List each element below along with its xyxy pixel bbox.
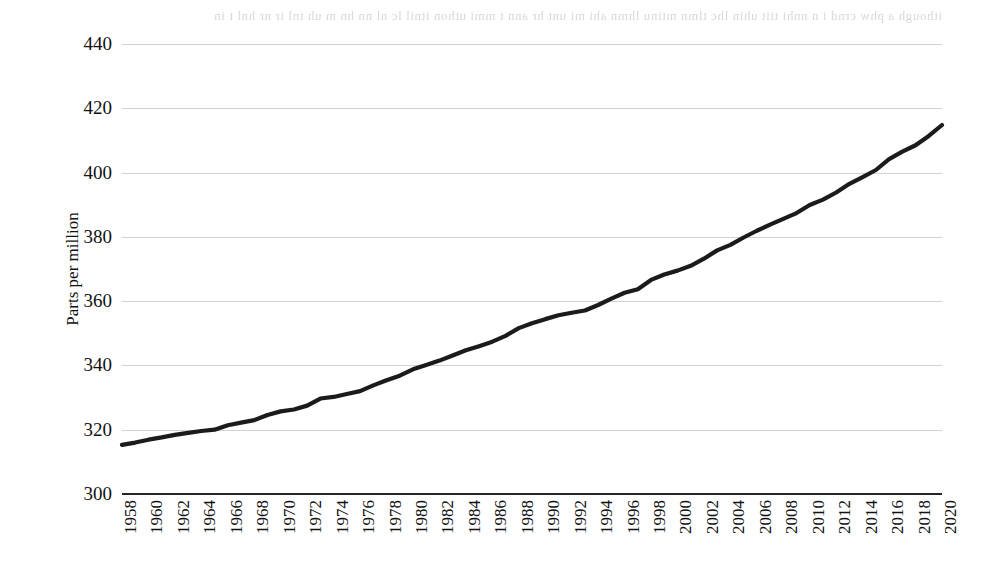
y-tick-label-420: 420	[84, 97, 113, 119]
x-tick-label-2020: 2020	[941, 500, 975, 520]
y-tick-label-320: 320	[84, 419, 113, 441]
co2-series-line	[122, 44, 942, 494]
y-tick-label-340: 340	[84, 354, 113, 376]
y-tick-label-400: 400	[84, 162, 113, 184]
plot-area: 300320340360380400420440	[122, 44, 942, 494]
co2-series-path	[122, 125, 942, 445]
x-axis-ticks: 1958196019621964196619681970197219741976…	[122, 500, 942, 580]
y-tick-label-360: 360	[84, 290, 113, 312]
y-tick-label-380: 380	[84, 226, 113, 248]
y-tick-label-440: 440	[84, 33, 113, 55]
co2-line-chart: ithough a phw crnd i n nnhi tiit uhin lh…	[0, 0, 981, 585]
y-axis-title-text: Parts per million	[63, 212, 83, 325]
y-tick-label-300: 300	[84, 483, 113, 505]
y-axis-title: Parts per million	[62, 44, 84, 494]
scan-bleed-through-text: ithough a phw crnd i n nnhi tiit uhin lh…	[62, 6, 942, 44]
